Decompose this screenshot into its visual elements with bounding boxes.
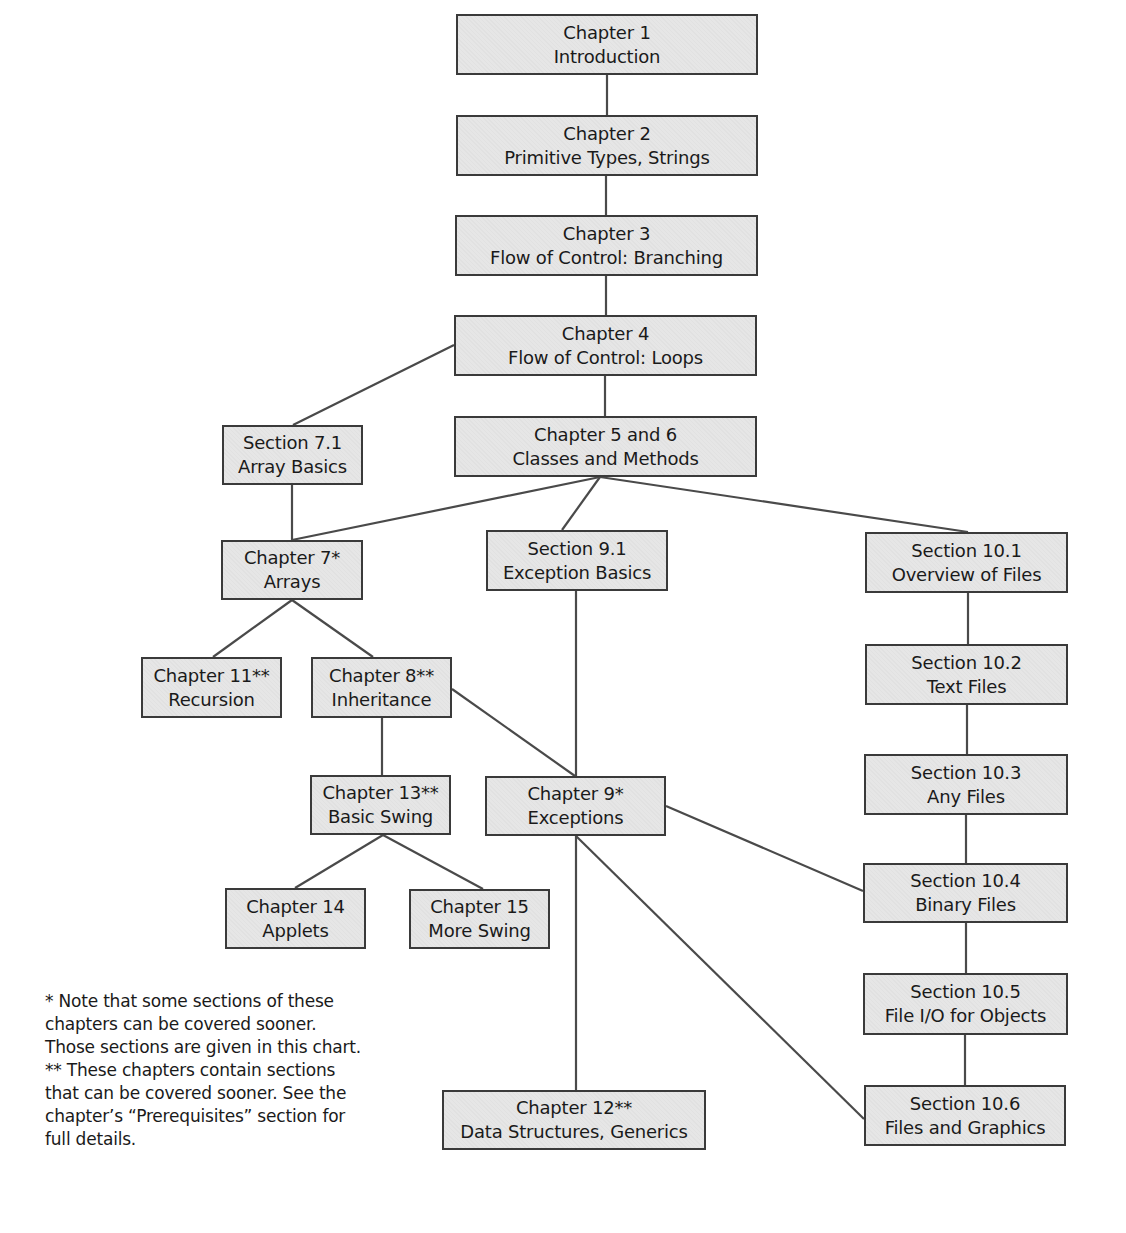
edge-ch5_6-to-sec10_1: [600, 477, 968, 532]
node-subtitle: Binary Files: [915, 893, 1016, 917]
footnote-line: * Note that some sections of these: [45, 990, 425, 1013]
node-subtitle: Data Structures, Generics: [460, 1120, 687, 1144]
node-title: Chapter 15: [430, 895, 529, 919]
node-title: Section 10.5: [910, 980, 1020, 1004]
node-ch8: Chapter 8**Inheritance: [311, 657, 452, 718]
node-ch3: Chapter 3Flow of Control: Branching: [455, 215, 758, 276]
node-sec10_5: Section 10.5File I/O for Objects: [863, 973, 1068, 1035]
edge-ch13-to-ch15: [383, 835, 483, 889]
edge-ch7-to-ch8: [292, 600, 373, 657]
footnote: * Note that some sections of these chapt…: [45, 990, 425, 1151]
node-subtitle: Introduction: [554, 45, 661, 69]
footnote-line: chapters can be covered sooner.: [45, 1013, 425, 1036]
node-subtitle: Recursion: [168, 688, 254, 712]
footnote-line: ** These chapters contain sections: [45, 1059, 425, 1082]
footnote-line: Those sections are given in this chart.: [45, 1036, 425, 1059]
node-ch2: Chapter 2Primitive Types, Strings: [456, 115, 758, 176]
node-title: Chapter 3: [563, 222, 650, 246]
node-subtitle: Inheritance: [332, 688, 432, 712]
node-title: Section 7.1: [243, 431, 342, 455]
node-title: Chapter 13**: [322, 781, 438, 805]
node-title: Chapter 5 and 6: [534, 423, 677, 447]
edge-ch5_6-to-sec9_1: [562, 477, 600, 530]
node-subtitle: Flow of Control: Branching: [490, 246, 723, 270]
footnote-line: chapter’s “Prerequisites” section for: [45, 1105, 425, 1128]
node-subtitle: Files and Graphics: [885, 1116, 1046, 1140]
node-ch1: Chapter 1Introduction: [456, 14, 758, 75]
node-title: Chapter 11**: [153, 664, 269, 688]
footnote-line: that can be covered sooner. See the: [45, 1082, 425, 1105]
node-ch7: Chapter 7*Arrays: [221, 540, 363, 600]
node-subtitle: Exceptions: [528, 806, 624, 830]
node-ch14: Chapter 14Applets: [225, 888, 366, 949]
node-ch9: Chapter 9*Exceptions: [485, 776, 666, 836]
node-subtitle: Basic Swing: [328, 805, 433, 829]
node-subtitle: Text Files: [927, 675, 1007, 699]
node-sec10_2: Section 10.2Text Files: [865, 644, 1068, 705]
node-title: Chapter 8**: [329, 664, 434, 688]
node-subtitle: Primitive Types, Strings: [504, 146, 709, 170]
node-sec10_6: Section 10.6Files and Graphics: [864, 1085, 1066, 1146]
node-title: Section 9.1: [527, 537, 626, 561]
node-title: Chapter 2: [563, 122, 650, 146]
node-title: Section 10.3: [911, 761, 1021, 785]
edge-ch9-to-sec10_4: [666, 806, 863, 891]
node-ch12: Chapter 12**Data Structures, Generics: [442, 1090, 706, 1150]
footnote-line: full details.: [45, 1128, 425, 1151]
node-ch13: Chapter 13**Basic Swing: [310, 775, 451, 835]
node-subtitle: Exception Basics: [503, 561, 651, 585]
node-subtitle: Classes and Methods: [512, 447, 698, 471]
node-title: Section 10.2: [911, 651, 1021, 675]
node-subtitle: Any Files: [927, 785, 1005, 809]
node-title: Chapter 12**: [516, 1096, 632, 1120]
edge-ch4-to-sec7_1: [293, 345, 454, 425]
node-title: Chapter 1: [563, 21, 650, 45]
node-title: Section 10.4: [910, 869, 1020, 893]
node-title: Section 10.6: [910, 1092, 1020, 1116]
node-subtitle: Overview of Files: [892, 563, 1042, 587]
node-title: Chapter 7*: [244, 546, 340, 570]
node-subtitle: Array Basics: [238, 455, 347, 479]
node-title: Section 10.1: [911, 539, 1021, 563]
edge-ch9-to-sec10_6: [576, 836, 864, 1119]
node-subtitle: More Swing: [428, 919, 530, 943]
node-sec10_4: Section 10.4Binary Files: [863, 863, 1068, 923]
node-ch15: Chapter 15More Swing: [409, 889, 550, 949]
edge-ch13-to-ch14: [295, 835, 383, 888]
node-subtitle: File I/O for Objects: [885, 1004, 1047, 1028]
node-sec10_3: Section 10.3Any Files: [864, 754, 1068, 815]
node-ch5_6: Chapter 5 and 6Classes and Methods: [454, 416, 757, 477]
edge-ch7-to-ch11: [213, 600, 292, 657]
node-sec7_1: Section 7.1Array Basics: [222, 425, 363, 485]
node-subtitle: Arrays: [264, 570, 321, 594]
node-ch4: Chapter 4Flow of Control: Loops: [454, 315, 757, 376]
node-subtitle: Flow of Control: Loops: [508, 346, 703, 370]
node-ch11: Chapter 11**Recursion: [141, 657, 282, 718]
node-sec10_1: Section 10.1Overview of Files: [865, 532, 1068, 593]
node-subtitle: Applets: [262, 919, 328, 943]
node-title: Chapter 4: [562, 322, 649, 346]
node-title: Chapter 9*: [527, 782, 623, 806]
node-title: Chapter 14: [246, 895, 345, 919]
edge-ch8-to-ch9: [452, 689, 575, 776]
node-sec9_1: Section 9.1Exception Basics: [486, 530, 668, 591]
